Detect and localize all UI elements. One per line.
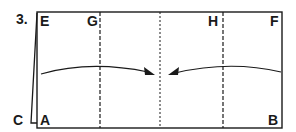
fold-arrow-left-curve	[41, 66, 148, 74]
label-f: F	[270, 13, 279, 29]
fold-arrow-right-curve	[175, 66, 281, 73]
label-g: G	[87, 13, 98, 29]
folded-flap	[31, 13, 37, 123]
label-b: B	[268, 112, 278, 128]
arrowhead-left-icon	[168, 67, 179, 75]
label-h: H	[208, 13, 218, 29]
arrowhead-right-icon	[144, 67, 155, 75]
folding-diagram: 3. E G H F C A B	[0, 0, 296, 132]
label-a: A	[40, 112, 50, 128]
label-e: E	[40, 13, 49, 29]
label-c: C	[13, 112, 23, 128]
step-number: 3.	[16, 11, 28, 27]
